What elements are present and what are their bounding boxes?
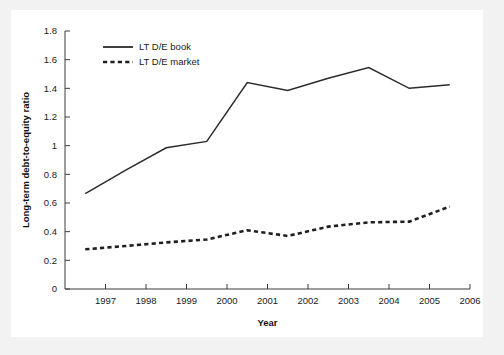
x-tick-label: 2001	[257, 295, 278, 306]
x-tick-label: 1998	[135, 295, 156, 306]
x-tick-label: 2002	[297, 295, 318, 306]
y-tick-label: 0.8	[44, 169, 57, 180]
y-tick-label: 1.6	[44, 54, 57, 65]
figure-canvas: 00.20.40.60.811.21.41.61.819971998199920…	[11, 10, 483, 337]
x-tick-label: 2006	[459, 295, 480, 306]
series-line-lt-d-e-book	[85, 68, 450, 194]
legend-label: LT D/E book	[139, 41, 191, 52]
y-axis-title: Long-term debt-to-equity ratio	[20, 92, 31, 228]
line-chart: 00.20.40.60.811.21.41.61.819971998199920…	[11, 10, 483, 337]
x-tick-label: 2000	[216, 295, 237, 306]
y-tick-label: 1.4	[44, 83, 57, 94]
x-tick-label: 1999	[176, 295, 197, 306]
axis-spine	[65, 31, 470, 289]
y-tick-label: 0.6	[44, 197, 57, 208]
x-tick-label: 2005	[419, 295, 440, 306]
x-tick-label: 2004	[378, 295, 399, 306]
y-tick-label: 0.2	[44, 255, 57, 266]
x-tick-label: 1997	[95, 295, 116, 306]
y-tick-label: 0	[52, 283, 57, 294]
y-tick-label: 0.4	[44, 226, 57, 237]
x-axis-title: Year	[257, 317, 277, 328]
y-tick-label: 1.8	[44, 25, 57, 36]
y-tick-label: 1.2	[44, 111, 57, 122]
series-line-lt-d-e-market	[85, 207, 450, 250]
x-tick-label: 2003	[338, 295, 359, 306]
legend-label: LT D/E market	[139, 56, 200, 67]
y-tick-label: 1	[52, 140, 57, 151]
